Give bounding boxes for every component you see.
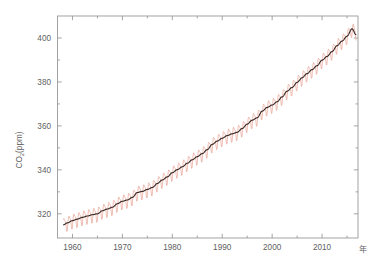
- co2-keeling-curve-chart: 196019701980199020002010320340360380400 …: [0, 0, 380, 276]
- svg-text:CO2(ppm): CO2(ppm): [15, 131, 25, 168]
- x-tick-label: 1960: [63, 243, 82, 252]
- y-axis-title-main: CO: [15, 156, 24, 168]
- x-tick-label: 1980: [163, 243, 182, 252]
- chart-page: 196019701980199020002010320340360380400 …: [0, 0, 380, 276]
- y-tick-label: 340: [37, 166, 51, 175]
- y-tick-label: 360: [37, 122, 51, 131]
- y-axis-title-unit: (ppm): [15, 131, 24, 153]
- x-tick-label: 1970: [113, 243, 132, 252]
- y-axis-title: CO2(ppm): [15, 131, 25, 168]
- y-tick-label: 400: [37, 34, 51, 43]
- x-axis-title: 年: [359, 244, 367, 254]
- y-tick-label: 380: [37, 78, 51, 87]
- y-tick-label: 320: [37, 210, 51, 219]
- x-tick-label: 2010: [313, 243, 332, 252]
- x-tick-label: 2000: [263, 243, 282, 252]
- x-tick-label: 1990: [213, 243, 232, 252]
- chart-background: [0, 0, 380, 276]
